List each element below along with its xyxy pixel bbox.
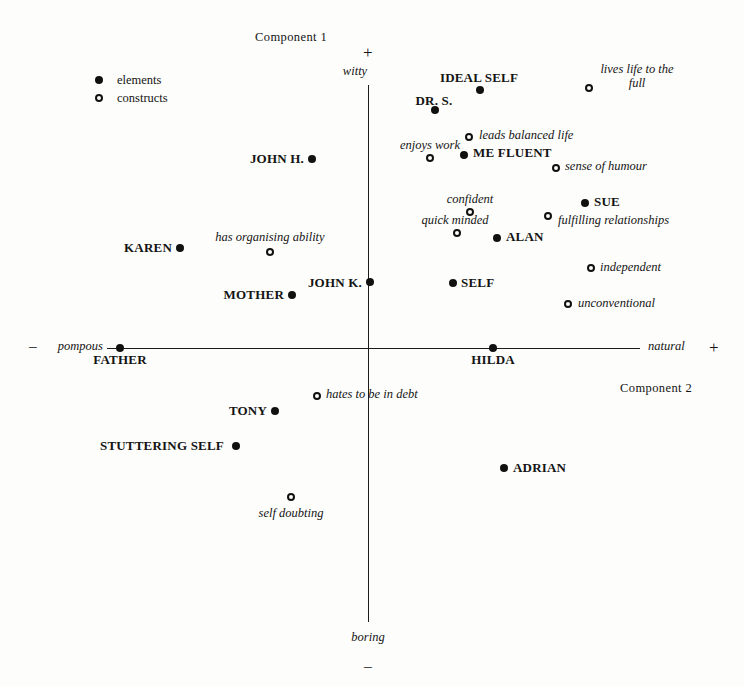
data-point-label: SUE	[594, 194, 620, 210]
legend-marker-elements	[95, 76, 103, 84]
data-point-label: independent	[600, 260, 661, 275]
data-point-label: quick minded	[422, 213, 489, 228]
data-point-label: JOHN H.	[250, 151, 304, 167]
data-point-marker	[564, 300, 572, 308]
data-point-label: TONY	[229, 403, 267, 419]
data-point-marker	[587, 264, 595, 272]
legend-label-elements: elements	[117, 73, 161, 88]
data-point-marker	[116, 344, 124, 352]
data-point-marker	[460, 151, 468, 159]
data-point-label: has organising ability	[215, 230, 324, 245]
data-point-marker	[232, 442, 240, 450]
data-point-marker	[426, 154, 434, 162]
data-point-marker	[271, 407, 279, 415]
horizontal-axis-positive-pole-label: natural	[648, 339, 685, 354]
data-point-label: enjoys work	[400, 138, 460, 153]
vertical-axis-positive-pole-label: witty	[343, 64, 367, 79]
data-point-label: hates to be in debt	[326, 387, 418, 402]
data-point-marker	[449, 279, 457, 287]
data-point-label: lives life to the full	[591, 62, 683, 91]
data-point-label: SELF	[461, 275, 494, 291]
data-point-marker	[288, 291, 296, 299]
vertical-axis-minus-sign: −	[363, 659, 373, 676]
repertory-grid-biplot: + − − + witty boring pompous natural Com…	[0, 0, 744, 687]
legend-label-constructs: constructs	[117, 91, 168, 106]
data-point-marker	[581, 199, 589, 207]
horizontal-axis-line	[107, 348, 640, 349]
data-point-marker	[453, 229, 461, 237]
vertical-axis-negative-pole-label: boring	[351, 630, 384, 645]
data-point-label: STUTTERING SELF	[100, 438, 224, 454]
component-2-axis-title: Component 2	[620, 381, 692, 396]
data-point-label: MOTHER	[224, 287, 284, 303]
data-point-label: sense of humour	[565, 159, 647, 174]
data-point-label: ALAN	[506, 229, 544, 245]
data-point-label: ME FLUENT	[473, 145, 552, 161]
vertical-axis-line	[368, 85, 369, 622]
horizontal-axis-minus-sign: −	[28, 339, 38, 356]
data-point-label: DR. S.	[416, 93, 453, 109]
data-point-marker	[544, 212, 552, 220]
data-point-label: leads balanced life	[479, 128, 573, 143]
data-point-marker	[176, 244, 184, 252]
data-point-label: FATHER	[93, 352, 146, 368]
legend-marker-constructs	[95, 94, 103, 102]
data-point-label: confident	[447, 192, 494, 207]
horizontal-axis-plus-sign: +	[709, 339, 719, 356]
data-point-marker	[366, 278, 374, 286]
data-point-marker	[313, 392, 321, 400]
data-point-label: self doubting	[259, 506, 324, 521]
data-point-marker	[500, 464, 508, 472]
data-point-marker	[308, 155, 316, 163]
data-point-marker	[552, 164, 560, 172]
data-point-marker	[493, 234, 501, 242]
data-point-label: KAREN	[124, 240, 172, 256]
data-point-label: HILDA	[471, 352, 515, 368]
data-point-label: ADRIAN	[513, 460, 566, 476]
data-point-label: fulfilling relationships	[558, 213, 669, 228]
data-point-marker	[465, 133, 473, 141]
data-point-marker	[266, 248, 274, 256]
data-point-marker	[476, 86, 484, 94]
data-point-marker	[287, 493, 295, 501]
vertical-axis-plus-sign: +	[363, 44, 373, 61]
component-1-axis-title: Component 1	[255, 30, 327, 45]
data-point-label: unconventional	[578, 296, 655, 311]
data-point-label: JOHN K.	[308, 275, 362, 291]
data-point-label: IDEAL SELF	[440, 70, 518, 86]
data-point-marker	[489, 344, 497, 352]
